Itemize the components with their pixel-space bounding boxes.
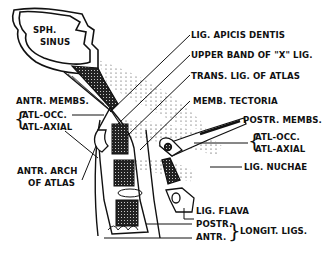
- label-antr-arch-2: OF ATLAS: [28, 178, 75, 188]
- brace-longit-ligs: {: [228, 221, 241, 241]
- label-lig-nuchae: LIG. NUCHAE: [244, 162, 307, 172]
- label-sph-sinus-2: SINUS: [40, 37, 70, 47]
- label-trans-lig-atlas: TRANS. LIG. OF ATLAS: [191, 71, 300, 81]
- label-lig-flava: LIG. FLAVA: [196, 206, 249, 216]
- label-postr: POSTR.: [196, 219, 232, 229]
- label-antr-membs: ANTR. MEMBS.: [16, 96, 89, 106]
- label-memb-tectoria: MEMB. TECTORIA: [193, 96, 278, 106]
- label-antr-atl-occ: ATL-OCC.: [22, 110, 67, 120]
- label-antr-arch-1: ANTR. ARCH: [17, 166, 78, 176]
- label-antr-atl-axial: ATL-AXIAL: [22, 122, 72, 132]
- label-postr-atl-occ: ATL-OCC.: [255, 132, 300, 142]
- label-antr: ANTR.: [196, 232, 226, 242]
- label-postr-atl-axial: ATL-AXIAL: [255, 144, 305, 154]
- label-upper-band-x-lig: UPPER BAND OF "X" LIG.: [191, 50, 313, 60]
- label-sph-sinus-1: SPH.: [33, 25, 56, 35]
- label-longit-ligs: LONGIT. LIGS.: [240, 226, 307, 236]
- label-lig-apicis-dentis: LIG. APICIS DENTIS: [191, 30, 285, 40]
- anatomy-diagram: SPH. SINUS LIG. APICIS DENTIS UPPER BAND…: [0, 0, 330, 253]
- label-postr-membs: POSTR. MEMBS.: [243, 115, 322, 125]
